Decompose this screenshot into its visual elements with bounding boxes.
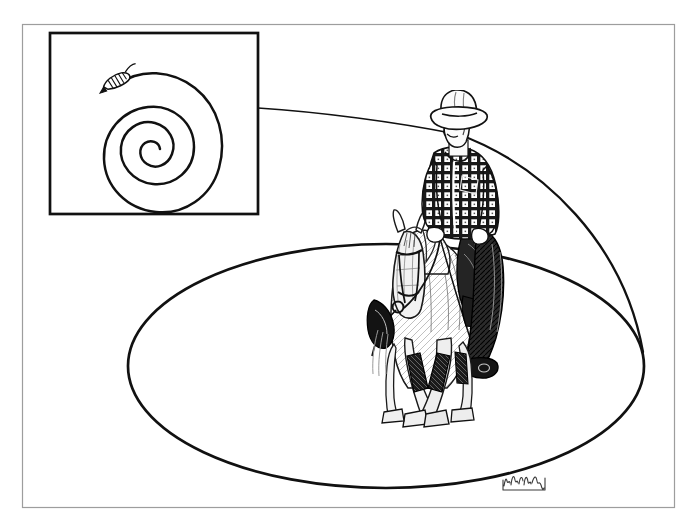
rider-hand-left bbox=[427, 227, 444, 242]
spiral-diagram-box bbox=[50, 33, 258, 214]
illustration-canvas: Reining pattern spiral illustration bbox=[0, 0, 697, 526]
hoof-rear-right bbox=[451, 408, 474, 422]
rider-hand-right bbox=[472, 228, 489, 244]
cowboy-hat-brim bbox=[431, 107, 488, 130]
splint-boot-rear bbox=[455, 352, 468, 384]
drawing-root bbox=[0, 0, 697, 526]
